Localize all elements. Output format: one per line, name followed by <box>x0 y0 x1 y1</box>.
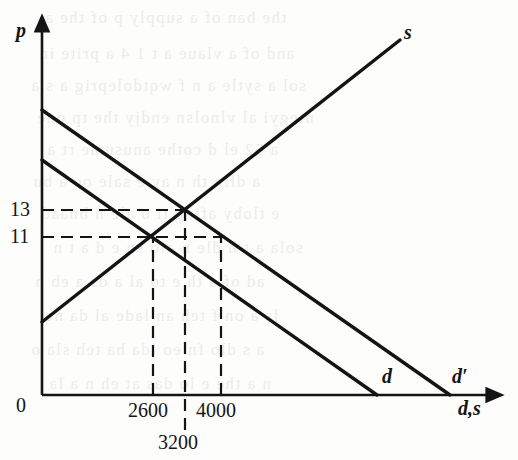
x-axis-label: d,s <box>458 398 481 418</box>
x-tick-label-2600: 2600 <box>128 400 168 420</box>
demand-curve-label: d <box>382 366 392 386</box>
x-tick-label-3200: 3200 <box>158 432 198 452</box>
x-tick-label-4000: 4000 <box>196 400 236 420</box>
origin-label: 0 <box>16 395 26 415</box>
demand-curve <box>42 160 377 395</box>
supply-curve-label: s <box>404 22 412 42</box>
demand-shifted-curve-label: d′ <box>452 366 468 386</box>
supply-demand-figure: the ban of a supply p of the a and of a … <box>0 0 518 460</box>
y-tick-label-11: 11 <box>10 226 29 246</box>
y-tick-label-13: 13 <box>10 199 30 219</box>
y-axis-label: p <box>16 20 26 40</box>
plot-canvas <box>0 0 518 460</box>
demand-shifted-curve <box>42 110 450 395</box>
